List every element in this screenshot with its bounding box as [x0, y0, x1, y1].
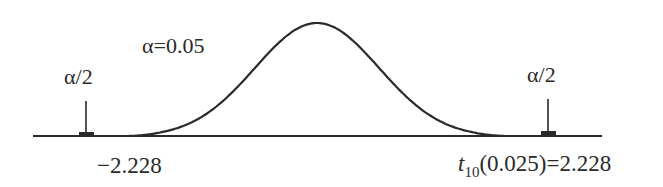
left-tail-marker [79, 101, 94, 136]
left-critical-value-label: −2.228 [97, 153, 162, 178]
right-tail-marker [541, 99, 556, 135]
right-tail-label: α/2 [527, 62, 556, 87]
left-marker-bar [79, 132, 94, 136]
t-distribution-diagram: α=0.05 α/2 α/2 −2.228 t10(0.025)=2.228 [0, 0, 663, 187]
df-subscript: 10 [464, 164, 479, 180]
alpha-label: α=0.05 [142, 33, 204, 58]
critical-value-expression: (0.025)=2.228 [479, 151, 611, 176]
right-critical-value-label: t10(0.025)=2.228 [458, 151, 611, 180]
left-tail-label: α/2 [64, 64, 93, 89]
right-marker-bar [541, 131, 556, 135]
